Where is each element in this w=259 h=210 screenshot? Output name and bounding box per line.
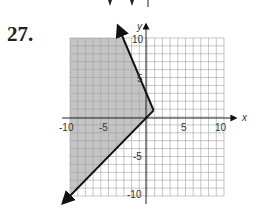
previous-problem-fragment — [108, 0, 148, 7]
y-tick-10: 10 — [132, 34, 144, 45]
x-tick-10: 10 — [215, 122, 227, 133]
x-tick--5: -5 — [99, 122, 108, 133]
y-axis-label: y — [136, 21, 143, 32]
y-tick--5: -5 — [133, 151, 142, 162]
x-tick--10: -10 — [59, 122, 74, 133]
y-tick--10: -10 — [127, 189, 142, 200]
inequality-graph: y x -10 -5 5 10 10 5 -5 -10 — [0, 0, 259, 210]
x-tick-5: 5 — [181, 122, 187, 133]
x-axis-label: x — [241, 112, 248, 123]
y-tick-5: 5 — [137, 73, 143, 84]
